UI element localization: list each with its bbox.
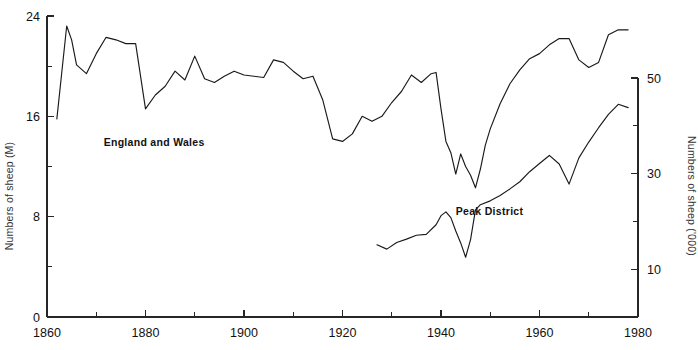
right-tick-label: 10 <box>647 263 661 277</box>
right-tick-label: 50 <box>647 72 661 86</box>
left-tick-label: 24 <box>26 10 40 24</box>
x-tick-label: 1860 <box>33 326 61 340</box>
right-y-axis: 103050 Numbers of sheep ('000) <box>631 72 698 318</box>
right-axis-title: Numbers of sheep ('000) <box>686 136 698 256</box>
left-axis-ticks <box>47 16 54 317</box>
left-tick-label: 16 <box>26 110 40 124</box>
left-axis-title: Numbers of sheep (M) <box>3 142 15 250</box>
x-tick-label: 1980 <box>624 326 652 340</box>
left-y-axis: 081624 Numbers of sheep (M) <box>3 10 54 325</box>
x-tick-label: 1900 <box>230 326 258 340</box>
england-and-wales-label: England and Wales <box>104 136 205 148</box>
right-tick-label: 30 <box>647 167 661 181</box>
x-axis: 1860188019001920194019601980 <box>33 310 652 340</box>
left-axis-tick-labels: 081624 <box>26 10 40 325</box>
x-tick-label: 1940 <box>427 326 455 340</box>
right-axis-tick-labels: 103050 <box>647 72 661 277</box>
x-tick-label: 1920 <box>329 326 357 340</box>
peak-district-label: Peak District <box>456 205 524 217</box>
x-axis-tick-labels: 1860188019001920194019601980 <box>33 326 652 340</box>
sheep-numbers-figure: 081624 Numbers of sheep (M) 186018801900… <box>0 0 698 350</box>
right-axis-ticks <box>631 78 638 269</box>
left-tick-label: 8 <box>33 210 40 224</box>
x-axis-ticks <box>47 310 638 317</box>
x-tick-label: 1880 <box>132 326 160 340</box>
left-tick-label: 0 <box>33 311 40 325</box>
series-line-england-and-wales <box>57 26 628 188</box>
x-tick-label: 1960 <box>526 326 554 340</box>
line-chart: 081624 Numbers of sheep (M) 186018801900… <box>0 0 698 350</box>
annotation-layer: England and WalesPeak District <box>104 136 524 217</box>
series-line-peak-district <box>377 104 628 257</box>
